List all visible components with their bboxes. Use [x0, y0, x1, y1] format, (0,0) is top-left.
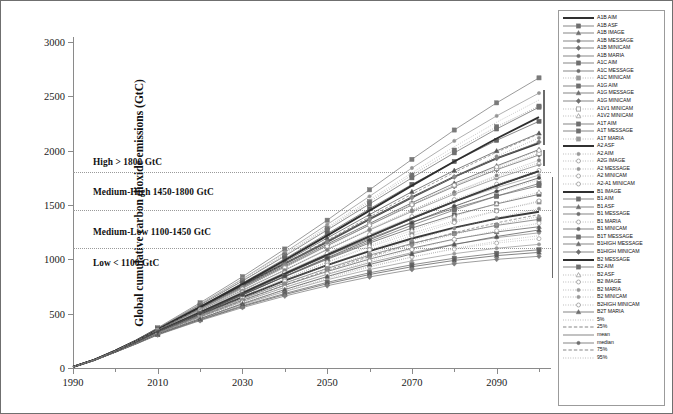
legend-label: B2 ASF: [595, 271, 614, 279]
legend-key-open-triangle-icon: [562, 112, 595, 120]
legend-label: A1B AIM: [595, 14, 617, 22]
legend-item[interactable]: mean: [562, 331, 662, 339]
legend-item[interactable]: B2 MESSAGE: [562, 256, 662, 264]
x-tick-label: 2010: [147, 377, 168, 388]
legend-item[interactable]: B1HIGH MINICAM: [562, 248, 662, 256]
legend-key-line: [562, 331, 595, 339]
range-bar-3: [552, 177, 553, 278]
legend-item[interactable]: A1B MESSAGE: [562, 37, 662, 45]
legend-item[interactable]: B2 ASF: [562, 271, 662, 279]
legend-item[interactable]: B1 MARIA: [562, 218, 662, 226]
legend-item[interactable]: 5%: [562, 316, 662, 324]
legend-item[interactable]: A1C MESSAGE: [562, 67, 662, 75]
series-b2t-maria: [73, 228, 541, 367]
legend-item[interactable]: A1T AIM: [562, 120, 662, 128]
legend-key-dot-icon: [562, 150, 595, 158]
plot-frame: Global cumulative carbon dioxide emissio…: [73, 37, 551, 369]
legend-item[interactable]: B2 IMAGE: [562, 278, 662, 286]
legend-label: B1 MINICAM: [595, 225, 627, 233]
legend-key-diamond-icon: [562, 44, 595, 52]
legend-item[interactable]: B1HIGH MESSAGE: [562, 240, 662, 248]
legend-key-dot-icon: [562, 286, 595, 294]
legend-item[interactable]: A1B IMAGE: [562, 29, 662, 37]
series-a1g-aim: [73, 119, 541, 367]
legend-item[interactable]: A1C AIM: [562, 59, 662, 67]
range-bar-5: [552, 231, 553, 243]
legend-label: A2 MINICAM: [595, 172, 627, 180]
legend-key-square-icon: [562, 263, 595, 271]
legend-item[interactable]: A2-A1 MINICAM: [562, 180, 662, 188]
legend-key-dot-icon: [562, 37, 595, 45]
legend-key-open-circle-icon: [562, 180, 595, 188]
legend-item[interactable]: A2 MESSAGE: [562, 165, 662, 173]
legend-item[interactable]: A2 AIM: [562, 150, 662, 158]
figure-container: Global cumulative carbon dioxide emissio…: [0, 0, 673, 414]
legend-item[interactable]: A1T MARIA: [562, 135, 662, 143]
legend-item[interactable]: A1V2 MINICAM: [562, 112, 662, 120]
legend-item[interactable]: B2T MARIA: [562, 308, 662, 316]
legend-key-dot-icon: [562, 52, 595, 60]
legend-key-open-circle-icon: [562, 218, 595, 226]
legend-item[interactable]: B2HIGH MINICAM: [562, 301, 662, 309]
legend-box[interactable]: A1B AIMA1B ASFA1B IMAGEA1B MESSAGEA1B MI…: [558, 10, 665, 406]
legend-item[interactable]: 95%: [562, 354, 662, 362]
legend-label: A2 MESSAGE: [595, 165, 630, 173]
legend-item[interactable]: B1 MESSAGE: [562, 210, 662, 218]
legend-label: A1G MINICAM: [595, 97, 631, 105]
plot-area: Global cumulative carbon dioxide emissio…: [73, 37, 551, 369]
legend-item[interactable]: A1G AIM: [562, 82, 662, 90]
legend-label: 75%: [595, 346, 607, 354]
y-tick-label: 2500: [44, 91, 65, 102]
legend-item[interactable]: B1 IMAGE: [562, 188, 662, 196]
legend-key-open-triangle-icon: [562, 271, 595, 279]
legend-item[interactable]: A2 MINICAM: [562, 172, 662, 180]
legend-item[interactable]: B2 MINICAM: [562, 293, 662, 301]
legend-label: A1G MESSAGE: [595, 89, 634, 97]
legend-item[interactable]: 75%: [562, 346, 662, 354]
legend-item[interactable]: A1B AIM: [562, 14, 662, 22]
legend-key-dot-icon: [562, 210, 595, 218]
legend-item[interactable]: B2 AIM: [562, 263, 662, 271]
legend-label: B1 MARIA: [595, 218, 621, 226]
legend-item[interactable]: A1B MARIA: [562, 52, 662, 60]
legend-label: mean: [595, 331, 610, 339]
legend-item[interactable]: B1T MESSAGE: [562, 233, 662, 241]
legend-label: 5%: [595, 316, 604, 324]
legend-item[interactable]: B2 MARIA: [562, 286, 662, 294]
legend-item[interactable]: A1G MINICAM: [562, 97, 662, 105]
legend-key-square-icon: [562, 120, 595, 128]
legend-label: A1T AIM: [595, 120, 616, 128]
legend-item[interactable]: B1 AIM: [562, 195, 662, 203]
legend-key-line: [562, 316, 595, 324]
legend-key-line: [562, 354, 595, 362]
legend-item[interactable]: A1V1 MINICAM: [562, 105, 662, 113]
legend-item[interactable]: 25%: [562, 323, 662, 331]
y-tick-label: 1500: [44, 200, 65, 211]
legend-label: B2HIGH MINICAM: [595, 301, 640, 309]
legend-item[interactable]: A2 ASF: [562, 142, 662, 150]
legend-item[interactable]: B1 MINICAM: [562, 225, 662, 233]
series-b2high-minicam: [73, 221, 541, 367]
series-b1high-minicam: [73, 254, 541, 367]
legend-key-dot-icon: [562, 293, 595, 301]
x-tick-label: 2030: [232, 377, 253, 388]
legend-item[interactable]: A1G MESSAGE: [562, 89, 662, 97]
legend-label: B2 MINICAM: [595, 293, 627, 301]
legend-item[interactable]: A1C MINICAM: [562, 74, 662, 82]
legend-item[interactable]: A1B MINICAM: [562, 44, 662, 52]
legend-key-triangle-icon: [562, 89, 595, 97]
legend-key-line: [562, 188, 595, 196]
legend-key-diamond-icon: [562, 97, 595, 105]
legend-item[interactable]: A1B ASF: [562, 22, 662, 30]
legend-item[interactable]: A1T MESSAGE: [562, 127, 662, 135]
legend-label: B2 MESSAGE: [595, 256, 630, 264]
legend-label: B2T MARIA: [595, 308, 624, 316]
series-a1g-message: [73, 131, 541, 367]
legend-item[interactable]: B1 ASF: [562, 203, 662, 211]
legend-key-square-icon: [562, 22, 595, 30]
legend-label: A2G IMAGE: [595, 157, 625, 165]
legend-item[interactable]: median: [562, 339, 662, 347]
x-tick-label: 2070: [401, 377, 422, 388]
legend-label: A1B ASF: [595, 22, 618, 30]
legend-item[interactable]: A2G IMAGE: [562, 157, 662, 165]
